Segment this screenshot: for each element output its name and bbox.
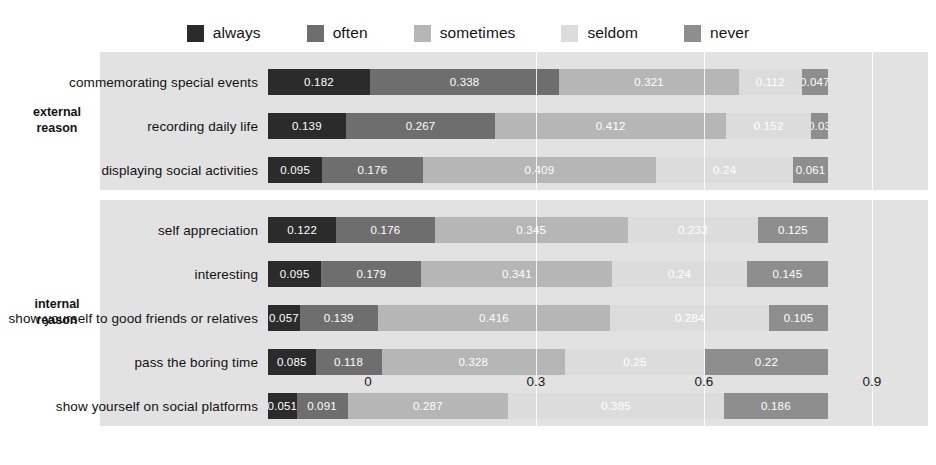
bar-segment-seldom[interactable]: 0.284	[610, 305, 769, 331]
category-label: displaying social activities	[0, 163, 268, 178]
bar-segment-often[interactable]: 0.176	[322, 157, 422, 183]
chart-row[interactable]: interesting0.0950.1790.3410.240.145	[0, 252, 828, 296]
bar-value-label: 0.24	[668, 268, 691, 280]
bar-value-label: 0.284	[675, 312, 705, 324]
bar-segment-often[interactable]: 0.176	[336, 217, 434, 243]
legend-swatch-icon	[187, 25, 204, 42]
category-label: show yourself to good friends or relativ…	[0, 311, 268, 326]
legend-item-label: often	[333, 24, 368, 42]
stacked-bar[interactable]: 0.1820.3380.3210.1120.047	[268, 69, 828, 95]
bar-segment-seldom[interactable]: 0.112	[739, 69, 802, 95]
bar-value-label: 0.061	[796, 164, 826, 176]
bar-value-label: 0.24	[713, 164, 736, 176]
bar-segment-never[interactable]: 0.145	[747, 261, 828, 287]
bar-segment-never[interactable]: 0.105	[769, 305, 828, 331]
bar-value-label: 0.105	[784, 312, 814, 324]
bar-segment-never[interactable]: 0.125	[758, 217, 828, 243]
bar-segment-always[interactable]: 0.122	[268, 217, 336, 243]
stacked-bar[interactable]: 0.0950.1790.3410.240.145	[268, 261, 828, 287]
legend-item-always[interactable]: always	[187, 24, 261, 42]
bar-segment-always[interactable]: 0.057	[268, 305, 300, 331]
bar-value-label: 0.176	[358, 164, 388, 176]
chart-legend: alwaysoftensometimesseldomnever	[0, 18, 936, 48]
bar-value-label: 0.409	[525, 164, 555, 176]
stacked-bar[interactable]: 0.0950.1760.4090.240.061	[268, 157, 828, 183]
bar-value-label: 0.412	[596, 120, 626, 132]
bar-value-label: 0.345	[516, 224, 546, 236]
bar-value-label: 0.03	[811, 120, 828, 132]
bar-value-label: 0.179	[356, 268, 386, 280]
bar-segment-always[interactable]: 0.095	[268, 261, 321, 287]
bar-segment-seldom[interactable]: 0.24	[656, 157, 793, 183]
legend-swatch-icon	[414, 25, 431, 42]
bar-segment-seldom[interactable]: 0.152	[726, 113, 811, 139]
bar-value-label: 0.145	[772, 268, 802, 280]
bar-value-label: 0.047	[802, 76, 828, 88]
x-tick-label: 0.9	[863, 374, 882, 389]
category-label: commemorating special events	[0, 75, 268, 90]
bar-value-label: 0.125	[778, 224, 808, 236]
bar-segment-often[interactable]: 0.267	[346, 113, 496, 139]
legend-swatch-icon	[684, 25, 701, 42]
stacked-bar[interactable]: 0.1390.2670.4120.1520.03	[268, 113, 828, 139]
bar-segment-always[interactable]: 0.182	[268, 69, 370, 95]
x-axis: 00.30.60.9	[100, 366, 928, 406]
bar-segment-never[interactable]: 0.047	[802, 69, 828, 95]
bar-value-label: 0.416	[479, 312, 509, 324]
bar-segment-often[interactable]: 0.179	[321, 261, 421, 287]
bar-segment-always[interactable]: 0.095	[268, 157, 322, 183]
legend-item-label: seldom	[587, 24, 638, 42]
bar-segment-sometimes[interactable]: 0.412	[495, 113, 726, 139]
bar-segment-never[interactable]: 0.061	[793, 157, 828, 183]
bar-value-label: 0.112	[756, 76, 785, 88]
bar-segment-always[interactable]: 0.139	[268, 113, 346, 139]
bar-segment-often[interactable]: 0.338	[370, 69, 559, 95]
stacked-bar[interactable]: 0.1220.1760.3450.2330.125	[268, 217, 828, 243]
x-tick-label: 0	[364, 374, 372, 389]
bar-value-label: 0.321	[634, 76, 664, 88]
bar-segment-seldom[interactable]: 0.233	[628, 217, 758, 243]
category-label: interesting	[0, 267, 268, 282]
chart-row[interactable]: show yourself to good friends or relativ…	[0, 296, 828, 340]
bar-segment-sometimes[interactable]: 0.416	[378, 305, 611, 331]
chart-row[interactable]: self appreciation0.1220.1760.3450.2330.1…	[0, 208, 828, 252]
legend-item-label: always	[213, 24, 261, 42]
bar-value-label: 0.122	[287, 224, 317, 236]
chart-row[interactable]: commemorating special events0.1820.3380.…	[0, 60, 828, 104]
x-tick-label: 0.6	[695, 374, 714, 389]
legend-item-label: never	[710, 24, 749, 42]
bar-value-label: 0.095	[280, 164, 310, 176]
bar-value-label: 0.233	[678, 224, 708, 236]
legend-swatch-icon	[307, 25, 324, 42]
bar-segment-sometimes[interactable]: 0.409	[423, 157, 656, 183]
bar-segment-sometimes[interactable]: 0.341	[421, 261, 612, 287]
bar-value-label: 0.338	[450, 76, 480, 88]
bar-value-label: 0.267	[406, 120, 436, 132]
legend-item-label: sometimes	[440, 24, 516, 42]
bar-value-label: 0.095	[280, 268, 310, 280]
x-tick-label: 0.3	[527, 374, 546, 389]
legend-item-seldom[interactable]: seldom	[561, 24, 638, 42]
bar-segment-never[interactable]: 0.03	[811, 113, 828, 139]
bar-segment-seldom[interactable]: 0.24	[612, 261, 746, 287]
chart-row[interactable]: recording daily life0.1390.2670.4120.152…	[0, 104, 828, 148]
stacked-bar[interactable]: 0.0570.1390.4160.2840.105	[268, 305, 828, 331]
legend-item-often[interactable]: often	[307, 24, 368, 42]
bar-segment-sometimes[interactable]: 0.321	[559, 69, 739, 95]
category-label: self appreciation	[0, 223, 268, 238]
category-label: recording daily life	[0, 119, 268, 134]
bar-value-label: 0.139	[324, 312, 354, 324]
bar-value-label: 0.139	[292, 120, 322, 132]
bar-value-label: 0.152	[754, 120, 784, 132]
chart-row[interactable]: displaying social activities0.0950.1760.…	[0, 148, 828, 192]
bar-segment-sometimes[interactable]: 0.345	[435, 217, 628, 243]
legend-item-sometimes[interactable]: sometimes	[414, 24, 516, 42]
legend-swatch-icon	[561, 25, 578, 42]
bar-value-label: 0.057	[269, 312, 299, 324]
legend-item-never[interactable]: never	[684, 24, 749, 42]
bar-value-label: 0.182	[304, 76, 334, 88]
bar-segment-often[interactable]: 0.139	[300, 305, 378, 331]
bar-value-label: 0.176	[371, 224, 401, 236]
bar-value-label: 0.341	[502, 268, 532, 280]
